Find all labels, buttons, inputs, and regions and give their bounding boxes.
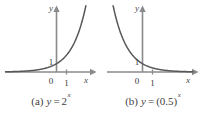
caption-b-exponent: x [178, 92, 181, 100]
y-intercept-label-a: 1 [49, 57, 54, 67]
chart-panel-a: y x 1 0 1 (a)y=2x [0, 0, 102, 117]
x-axis-label-b: x [185, 75, 190, 85]
caption-b-label: (b) [125, 95, 138, 107]
y-intercept-label-b: 1 [135, 57, 140, 67]
chart-panel-b: y x 1 0 1 (b)y=(0.5)x [102, 0, 204, 117]
caption-b-base: (0.5) [156, 95, 177, 107]
curve-a [6, 6, 86, 72]
origin-label-b: 0 [135, 76, 140, 86]
caption-a: (a)y=2x [0, 92, 102, 117]
plot-area-b: y x 1 0 1 [102, 0, 204, 92]
plot-area-a: y x 1 0 1 [0, 0, 102, 92]
y-axis-label-b: y [134, 3, 139, 13]
exponential-functions-figure: y x 1 0 1 (a)y=2x [0, 0, 204, 117]
caption-a-base: 2 [62, 95, 68, 107]
origin-label-a: 0 [49, 76, 54, 86]
caption-b: (b)y=(0.5)x [102, 92, 204, 117]
y-axis-label-a: y [48, 3, 53, 13]
curve-b [113, 6, 193, 72]
caption-a-label: (a) [31, 95, 43, 107]
caption-a-equals: = [53, 95, 59, 107]
caption-a-variable: y [47, 95, 52, 107]
caption-b-variable: y [141, 95, 146, 107]
caption-b-equals: = [148, 95, 154, 107]
caption-a-exponent: x [68, 92, 71, 100]
x-tick-label-b: 1 [150, 78, 155, 88]
x-tick-label-a: 1 [64, 78, 69, 88]
x-axis-label-a: x [83, 75, 88, 85]
